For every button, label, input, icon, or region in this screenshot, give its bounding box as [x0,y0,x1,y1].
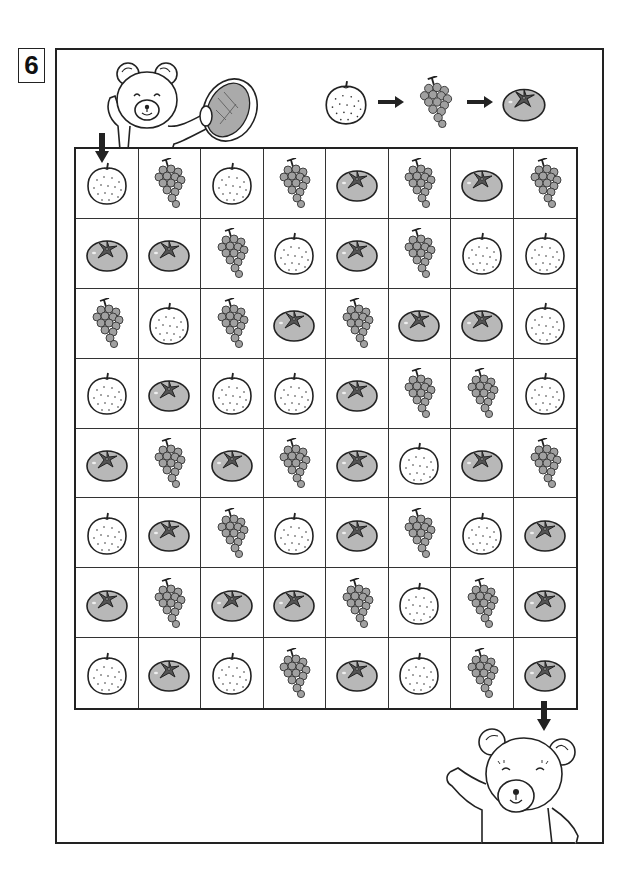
grape-icon [394,158,444,208]
grid-cell-r6-c4[interactable] [264,498,327,568]
bear-waving-illustration [442,712,602,844]
grid-cell-r6-c2[interactable] [139,498,202,568]
grape-icon [394,508,444,558]
grid-cell-r4-c4[interactable] [264,359,327,429]
persimmon-icon [332,368,382,418]
grid-cell-r1-c8[interactable] [514,149,577,219]
grid-cell-r8-c6[interactable] [389,638,452,708]
puzzle-number: 6 [24,50,38,81]
grid-cell-r6-c8[interactable] [514,498,577,568]
grid-cell-r1-c4[interactable] [264,149,327,219]
grid-cell-r8-c2[interactable] [139,638,202,708]
grape-icon [332,298,382,348]
persimmon-icon [82,578,132,628]
persimmon-icon [144,648,194,698]
grid-cell-r5-c6[interactable] [389,429,452,499]
grid-cell-r2-c6[interactable] [389,219,452,289]
grid-cell-r2-c4[interactable] [264,219,327,289]
persimmon-icon [82,228,132,278]
grid-cell-r5-c7[interactable] [451,429,514,499]
grape-icon [457,578,507,628]
persimmon-icon [498,76,550,128]
grape-icon [457,648,507,698]
grid-cell-r5-c5[interactable] [326,429,389,499]
grid-cell-r4-c1[interactable] [76,359,139,429]
grid-cell-r8-c5[interactable] [326,638,389,708]
grid-cell-r4-c7[interactable] [451,359,514,429]
grid-cell-r5-c2[interactable] [139,429,202,499]
grid-cell-r6-c1[interactable] [76,498,139,568]
persimmon-icon [269,298,319,348]
grid-cell-r4-c2[interactable] [139,359,202,429]
grid-cell-r6-c5[interactable] [326,498,389,568]
grid-cell-r4-c6[interactable] [389,359,452,429]
grid-cell-r3-c1[interactable] [76,289,139,359]
persimmon-icon [457,158,507,208]
grape-icon [207,298,257,348]
grape-icon [269,438,319,488]
grape-icon [269,158,319,208]
grid-cell-r8-c8[interactable] [514,638,577,708]
grid-cell-r4-c3[interactable] [201,359,264,429]
grid-cell-r7-c5[interactable] [326,568,389,638]
grid-cell-r1-c3[interactable] [201,149,264,219]
grid-cell-r3-c6[interactable] [389,289,452,359]
grid-cell-r6-c6[interactable] [389,498,452,568]
pear-icon [520,228,570,278]
grid-cell-r7-c7[interactable] [451,568,514,638]
grid-cell-r3-c8[interactable] [514,289,577,359]
grid-cell-r3-c3[interactable] [201,289,264,359]
persimmon-icon [394,298,444,348]
grape-icon [144,438,194,488]
sequence-legend [320,72,550,132]
persimmon-icon [82,438,132,488]
grid-cell-r1-c6[interactable] [389,149,452,219]
grid-cell-r4-c8[interactable] [514,359,577,429]
grid-cell-r5-c1[interactable] [76,429,139,499]
grid-cell-r6-c3[interactable] [201,498,264,568]
grid-cell-r3-c4[interactable] [264,289,327,359]
grid-cell-r6-c7[interactable] [451,498,514,568]
grid-cell-r1-c7[interactable] [451,149,514,219]
grid-cell-r7-c6[interactable] [389,568,452,638]
grid-cell-r7-c1[interactable] [76,568,139,638]
grid-cell-r2-c7[interactable] [451,219,514,289]
pear-icon [207,158,257,208]
grid-cell-r8-c3[interactable] [201,638,264,708]
grid-cell-r8-c7[interactable] [451,638,514,708]
grid-cell-r3-c7[interactable] [451,289,514,359]
grid-cell-r2-c5[interactable] [326,219,389,289]
grape-icon [394,368,444,418]
grid-cell-r2-c3[interactable] [201,219,264,289]
grid-cell-r5-c3[interactable] [201,429,264,499]
grid-cell-r2-c2[interactable] [139,219,202,289]
grid-cell-r8-c1[interactable] [76,638,139,708]
grid-cell-r2-c1[interactable] [76,219,139,289]
grape-icon [520,158,570,208]
pear-icon [144,298,194,348]
persimmon-icon [207,578,257,628]
grid-cell-r5-c4[interactable] [264,429,327,499]
persimmon-icon [332,648,382,698]
grid-cell-r7-c4[interactable] [264,568,327,638]
pear-icon [269,508,319,558]
grape-icon [269,648,319,698]
grid-cell-r7-c3[interactable] [201,568,264,638]
grid-cell-r3-c2[interactable] [139,289,202,359]
persimmon-icon [520,648,570,698]
grid-cell-r1-c5[interactable] [326,149,389,219]
grid-cell-r3-c5[interactable] [326,289,389,359]
persimmon-icon [332,508,382,558]
grid-cell-r2-c8[interactable] [514,219,577,289]
persimmon-icon [144,508,194,558]
grid-cell-r5-c8[interactable] [514,429,577,499]
grid-cell-r8-c4[interactable] [264,638,327,708]
grid-cell-r1-c2[interactable] [139,149,202,219]
right-arrow-icon [378,95,404,109]
persimmon-icon [520,508,570,558]
grid-cell-r4-c5[interactable] [326,359,389,429]
grid-cell-r7-c2[interactable] [139,568,202,638]
persimmon-icon [332,158,382,208]
grid-cell-r7-c8[interactable] [514,568,577,638]
pear-icon [520,368,570,418]
